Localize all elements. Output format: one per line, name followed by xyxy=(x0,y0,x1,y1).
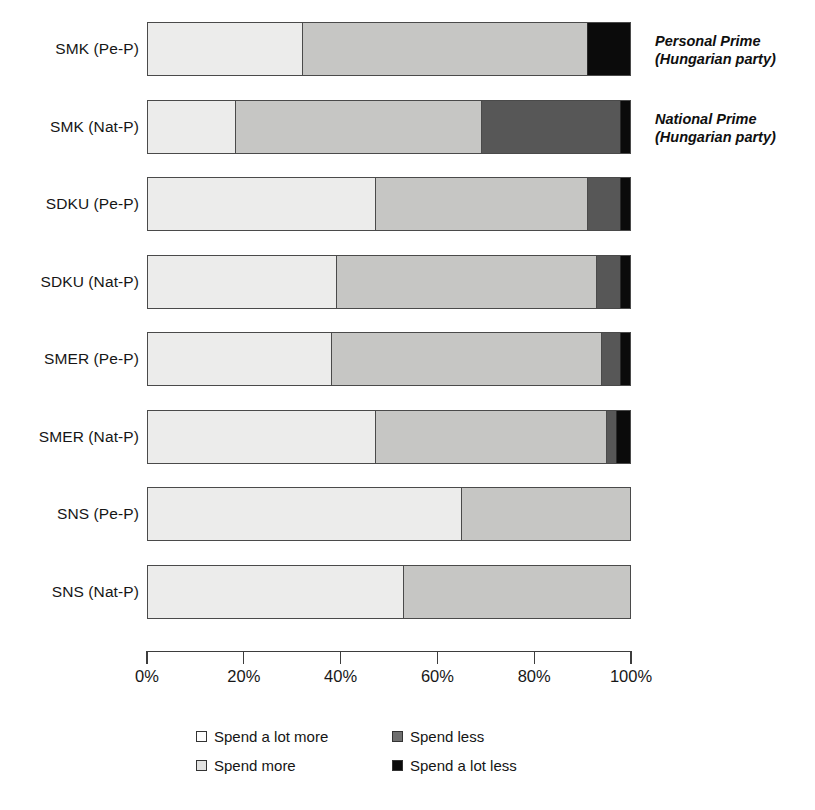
bar-segment[interactable] xyxy=(148,333,331,385)
bar-segment[interactable] xyxy=(587,23,630,75)
legend-item[interactable]: Spend a lot more xyxy=(196,728,392,745)
x-axis xyxy=(147,651,631,665)
plot-area: SMK (Pe-P)SMK (Nat-P)SDKU (Pe-P)SDKU (Na… xyxy=(0,14,815,639)
bar-segment[interactable] xyxy=(606,411,616,463)
legend-swatch-icon xyxy=(196,760,207,771)
bar-segment[interactable] xyxy=(336,256,596,308)
bar-segment[interactable] xyxy=(620,333,630,385)
stacked-bar[interactable] xyxy=(147,410,631,464)
stacked-bar[interactable] xyxy=(147,255,631,309)
bar-segment[interactable] xyxy=(148,488,461,540)
bar-container xyxy=(147,177,631,231)
legend-item[interactable]: Spend a lot less xyxy=(392,757,517,774)
bar-segment[interactable] xyxy=(375,178,587,230)
stacked-bar[interactable] xyxy=(147,22,631,76)
category-label: SDKU (Pe-P) xyxy=(0,195,139,213)
chart-row: SDKU (Nat-P) xyxy=(0,253,815,311)
chart-row: SNS (Nat-P) xyxy=(0,563,815,621)
bar-segment[interactable] xyxy=(302,23,586,75)
bar-segment[interactable] xyxy=(620,101,630,153)
bar-segment[interactable] xyxy=(148,411,375,463)
chart-legend: Spend a lot moreSpend lessSpend moreSpen… xyxy=(196,722,636,780)
bar-container xyxy=(147,487,631,541)
x-axis-tick-labels: 0%20%40%60%80%100% xyxy=(147,667,631,691)
stacked-bar[interactable] xyxy=(147,565,631,619)
x-axis-tick xyxy=(243,651,244,664)
bar-segment[interactable] xyxy=(596,256,620,308)
chart-row: SMER (Nat-P) xyxy=(0,408,815,466)
annotation-line-2: (Hungarian party) xyxy=(655,128,776,146)
chart-row: SDKU (Pe-P) xyxy=(0,175,815,233)
stacked-bar[interactable] xyxy=(147,177,631,231)
bar-segment[interactable] xyxy=(587,178,621,230)
legend-label: Spend less xyxy=(410,728,484,745)
bar-segment[interactable] xyxy=(481,101,621,153)
bar-segment[interactable] xyxy=(148,23,302,75)
bar-segment[interactable] xyxy=(375,411,606,463)
category-label: SNS (Nat-P) xyxy=(0,583,139,601)
bar-annotation: National Prime(Hungarian party) xyxy=(655,110,776,147)
legend-swatch-icon xyxy=(392,760,403,771)
legend-item[interactable]: Spend less xyxy=(392,728,484,745)
category-label: SNS (Pe-P) xyxy=(0,505,139,523)
bar-segment[interactable] xyxy=(403,566,630,618)
category-label: SDKU (Nat-P) xyxy=(0,273,139,291)
bar-container xyxy=(147,100,631,154)
x-axis-tick xyxy=(534,651,535,664)
legend-row: Spend a lot moreSpend less xyxy=(196,722,636,751)
x-axis-tick-label: 60% xyxy=(421,667,454,686)
chart-row: SMER (Pe-P) xyxy=(0,330,815,388)
x-axis-tick xyxy=(340,651,341,664)
legend-item[interactable]: Spend more xyxy=(196,757,392,774)
chart-row: SNS (Pe-P) xyxy=(0,485,815,543)
x-axis-tick xyxy=(630,651,631,664)
bar-segment[interactable] xyxy=(620,256,630,308)
x-axis-tick-label: 80% xyxy=(518,667,551,686)
bar-segment[interactable] xyxy=(331,333,601,385)
annotation-line-1: National Prime xyxy=(655,110,776,128)
stacked-bar[interactable] xyxy=(147,487,631,541)
x-axis-tick-label: 40% xyxy=(324,667,357,686)
category-label: SMK (Pe-P) xyxy=(0,40,139,58)
annotation-line-1: Personal Prime xyxy=(655,32,776,50)
bar-annotation: Personal Prime(Hungarian party) xyxy=(655,32,776,69)
bar-container xyxy=(147,255,631,309)
annotation-line-2: (Hungarian party) xyxy=(655,50,776,68)
x-axis-line xyxy=(147,651,631,652)
x-axis-tick-label: 0% xyxy=(135,667,159,686)
bar-container xyxy=(147,332,631,386)
bar-segment[interactable] xyxy=(620,178,630,230)
x-axis-tick xyxy=(146,651,147,664)
bar-segment[interactable] xyxy=(601,333,620,385)
bar-segment[interactable] xyxy=(148,178,375,230)
x-axis-tick xyxy=(437,651,438,664)
bar-segment[interactable] xyxy=(148,101,235,153)
stacked-bar[interactable] xyxy=(147,332,631,386)
bar-segment[interactable] xyxy=(461,488,630,540)
x-axis-tick-label: 20% xyxy=(227,667,260,686)
legend-row: Spend moreSpend a lot less xyxy=(196,751,636,780)
figure-stacked-bar-chart: SMK (Pe-P)SMK (Nat-P)SDKU (Pe-P)SDKU (Na… xyxy=(0,0,815,810)
x-axis-tick-label: 100% xyxy=(610,667,652,686)
legend-swatch-icon xyxy=(392,731,403,742)
bar-segment[interactable] xyxy=(235,101,481,153)
bar-container xyxy=(147,565,631,619)
legend-label: Spend a lot more xyxy=(214,728,328,745)
legend-label: Spend more xyxy=(214,757,296,774)
legend-label: Spend a lot less xyxy=(410,757,517,774)
stacked-bar[interactable] xyxy=(147,100,631,154)
bar-container xyxy=(147,22,631,76)
category-label: SMER (Nat-P) xyxy=(0,428,139,446)
bar-segment[interactable] xyxy=(148,256,336,308)
category-label: SMER (Pe-P) xyxy=(0,350,139,368)
bar-segment[interactable] xyxy=(616,411,630,463)
category-label: SMK (Nat-P) xyxy=(0,118,139,136)
bar-segment[interactable] xyxy=(148,566,403,618)
bar-container xyxy=(147,410,631,464)
legend-swatch-icon xyxy=(196,731,207,742)
